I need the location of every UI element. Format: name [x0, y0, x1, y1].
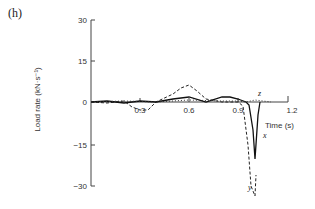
ytick-0: 0	[83, 98, 88, 107]
svg-text:1.2: 1.2	[286, 106, 298, 115]
svg-text:0.6: 0.6	[183, 106, 195, 115]
ytick-neg30: −30	[73, 182, 87, 191]
series-label-y: y	[247, 183, 252, 192]
svg-text:0.9: 0.9	[232, 106, 244, 115]
chart-plot: 30 15 0 −15 −30 0.3 0.6 0.9 1.2 Time (s)…	[0, 0, 315, 209]
ytick-30: 30	[78, 16, 87, 25]
series-label-x: x	[262, 131, 267, 140]
ytick-15: 15	[78, 57, 87, 66]
x-axis-label: Time (s)	[265, 121, 294, 130]
ytick-neg15: −15	[73, 141, 87, 150]
series-label-z: z	[257, 89, 262, 98]
